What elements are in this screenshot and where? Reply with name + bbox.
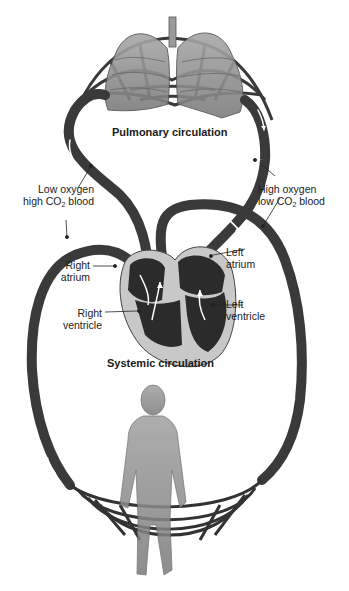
co2-prefix: low CO (258, 195, 292, 207)
left-atrium-line1: Left (226, 246, 255, 258)
left-ventricle-line2: ventricle (226, 310, 265, 322)
right-atrium-line2: atrium (54, 271, 90, 283)
right-atrium-label: Right atrium (54, 259, 90, 283)
co2-suffix: blood (65, 195, 94, 207)
heart (120, 247, 236, 367)
lungs (105, 17, 243, 118)
co2-suffix: blood (296, 195, 325, 207)
low-oxygen-line2: high CO2 blood (22, 195, 94, 211)
high-oxygen-line2: low CO2 blood (258, 195, 325, 211)
low-oxygen-label: Low oxygen high CO2 blood (22, 183, 94, 211)
right-atrium-chamber (128, 258, 165, 302)
systemic-circulation-title: Systemic circulation (107, 357, 214, 369)
high-oxygen-line1: High oxygen (258, 183, 325, 195)
left-ventricle-label: Left ventricle (226, 298, 265, 322)
low-oxygen-line1: Low oxygen (22, 183, 94, 195)
circulation-diagram: Pulmonary circulation Systemic circulati… (0, 0, 349, 591)
human-figure (120, 385, 186, 575)
left-ventricle-line1: Left (226, 298, 265, 310)
pulmonary-circulation-title: Pulmonary circulation (112, 126, 228, 138)
left-atrium-line2: atrium (226, 258, 255, 270)
right-atrium-line1: Right (54, 259, 90, 271)
right-ventricle-line1: Right (52, 307, 102, 319)
co2-prefix: high CO (23, 195, 62, 207)
left-atrium-label: Left atrium (226, 246, 255, 270)
right-ventricle-line2: ventricle (52, 319, 102, 331)
right-ventricle-label: Right ventricle (52, 307, 102, 331)
high-oxygen-label: High oxygen low CO2 blood (258, 183, 325, 211)
